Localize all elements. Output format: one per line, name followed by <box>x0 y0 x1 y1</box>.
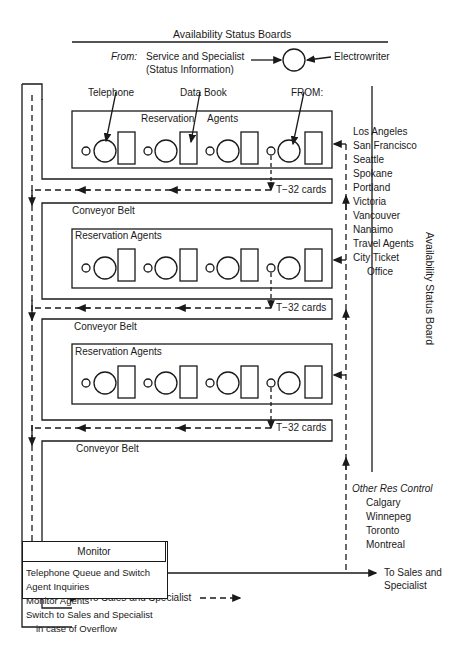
page-title: Availability Status Boards <box>173 28 291 40</box>
other-city-item: Winnepeg <box>366 510 411 524</box>
data-book-callout: Data Book <box>180 87 227 99</box>
row2-cards-label: T−32 cards <box>276 302 326 314</box>
telephone-callout: Telephone <box>88 87 134 99</box>
city-item: Los Angeles <box>353 125 417 139</box>
row2-belt-label: Conveyor Belt <box>74 321 137 333</box>
other-city-item: Toronto <box>366 524 411 538</box>
monitor-item: Switch to Sales and Specialist <box>26 608 153 622</box>
city-item: Victoria <box>353 195 417 209</box>
side-board-label: Availability Status Board <box>424 232 436 345</box>
city-item: Nanaimo <box>353 223 417 237</box>
monitor-items: Telephone Queue and Switch Agent Inquiri… <box>26 566 153 636</box>
city-item: Spokane <box>353 167 417 181</box>
other-city-item: Montreal <box>366 538 411 552</box>
city-item: Travel Agents <box>353 237 417 251</box>
monitor-item: Telephone Queue and Switch <box>26 566 153 580</box>
from-source-line1: Service and Specialist <box>146 51 244 63</box>
other-res-cities: Calgary Winnepeg Toronto Montreal <box>366 496 411 552</box>
monitor-to-sales-line2: Specialist <box>384 580 427 592</box>
row3-stations <box>82 366 322 398</box>
from-source-line2: (Status Information) <box>146 64 234 76</box>
monitor-item: Monitor Agents <box>26 594 153 608</box>
from-callout: FROM: <box>291 87 323 99</box>
monitor-to-sales-line1: To Sales and <box>384 567 442 579</box>
row3-belt-label: Conveyor Belt <box>76 443 139 455</box>
row1-cards-label: T−32 cards <box>276 184 326 196</box>
monitor-item: Agent Inquiries <box>26 580 153 594</box>
electrowriter-label: Electrowriter <box>334 51 390 63</box>
row1-group-label-b: Agents <box>207 113 238 125</box>
row3-group-label: Reservation Agents <box>75 346 162 358</box>
monitor-title: Monitor <box>22 541 166 562</box>
other-city-item: Calgary <box>366 496 411 510</box>
city-item: San Francisco <box>353 139 417 153</box>
row3-cards-label: T−32 cards <box>276 422 326 434</box>
row1-stations <box>82 132 322 164</box>
row1-group-label-a: Reservation <box>141 113 194 125</box>
other-res-title: Other Res Control <box>352 483 433 495</box>
city-item: Vancouver <box>353 209 417 223</box>
city-item: Portland <box>353 181 417 195</box>
row1-belt-label: Conveyor Belt <box>72 205 135 217</box>
from-label: From: <box>111 51 137 63</box>
city-item: City Ticket <box>353 251 417 265</box>
row2-stations <box>82 249 322 281</box>
monitor-item-cont: in case of Overflow <box>26 622 153 636</box>
source-cities-list: Los Angeles San Francisco Seattle Spokan… <box>353 125 417 279</box>
city-item: Seattle <box>353 153 417 167</box>
city-item-cont: Office <box>353 265 417 279</box>
row2-group-label: Reservation Agents <box>75 230 162 242</box>
